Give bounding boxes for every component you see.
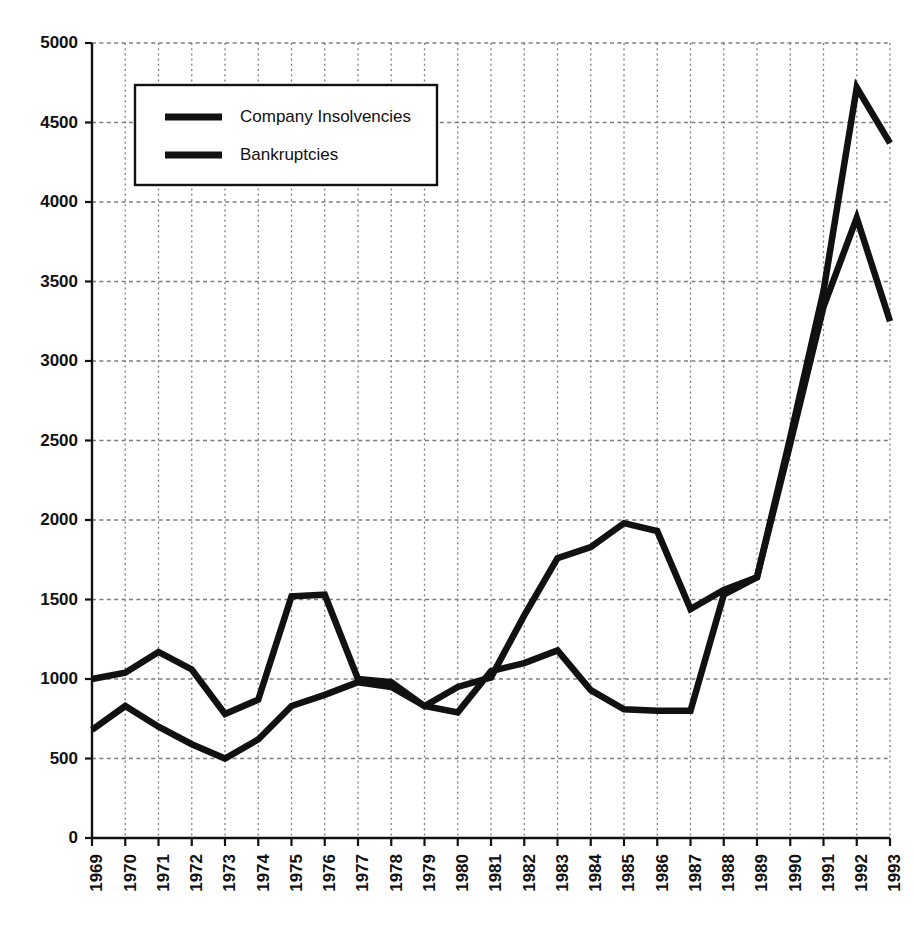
y-tick-label: 3500 xyxy=(40,272,78,291)
x-tick-label: 1989 xyxy=(752,854,771,892)
x-tick-label: 1969 xyxy=(87,854,106,892)
y-tick-label: 0 xyxy=(69,828,78,847)
x-tick-label: 1976 xyxy=(320,854,339,892)
y-tick-label: 5000 xyxy=(40,33,78,52)
y-tick-label: 3000 xyxy=(40,351,78,370)
x-tick-label: 1977 xyxy=(353,854,372,892)
y-tick-label: 1000 xyxy=(40,669,78,688)
x-tick-label: 1993 xyxy=(885,854,904,892)
x-tick-label: 1983 xyxy=(553,854,572,892)
x-tick-label: 1975 xyxy=(287,854,306,892)
x-tick-label: 1981 xyxy=(486,854,505,892)
x-tick-label: 1973 xyxy=(220,854,239,892)
x-tick-label: 1986 xyxy=(653,854,672,892)
y-tick-label: 4500 xyxy=(40,113,78,132)
x-tick-label: 1991 xyxy=(819,854,838,892)
x-tick-label: 1970 xyxy=(121,854,140,892)
chart-figure: 0500100015002000250030003500400045005000… xyxy=(0,0,914,925)
y-tick-label: 2000 xyxy=(40,510,78,529)
x-tick-label: 1992 xyxy=(852,854,871,892)
legend-label-company-insolvencies: Company Insolvencies xyxy=(240,107,411,126)
x-tick-label: 1987 xyxy=(686,854,705,892)
y-tick-label: 4000 xyxy=(40,192,78,211)
line-chart: 0500100015002000250030003500400045005000… xyxy=(0,0,914,925)
y-tick-label: 2500 xyxy=(40,431,78,450)
legend-label-bankruptcies: Bankruptcies xyxy=(240,145,338,164)
x-tick-label: 1978 xyxy=(387,854,406,892)
x-tick-label: 1974 xyxy=(254,853,273,891)
x-tick-label: 1990 xyxy=(786,854,805,892)
x-tick-label: 1972 xyxy=(187,854,206,892)
x-tick-label: 1971 xyxy=(154,854,173,892)
y-tick-label: 500 xyxy=(50,749,78,768)
x-tick-label: 1980 xyxy=(453,854,472,892)
x-tick-label: 1985 xyxy=(619,854,638,892)
x-tick-label: 1982 xyxy=(520,854,539,892)
x-tick-label: 1988 xyxy=(719,854,738,892)
y-tick-label: 1500 xyxy=(40,590,78,609)
x-tick-label: 1979 xyxy=(420,854,439,892)
chart-legend: Company Insolvencies Bankruptcies xyxy=(135,85,437,185)
legend-box xyxy=(135,85,437,185)
x-tick-label: 1984 xyxy=(586,853,605,891)
